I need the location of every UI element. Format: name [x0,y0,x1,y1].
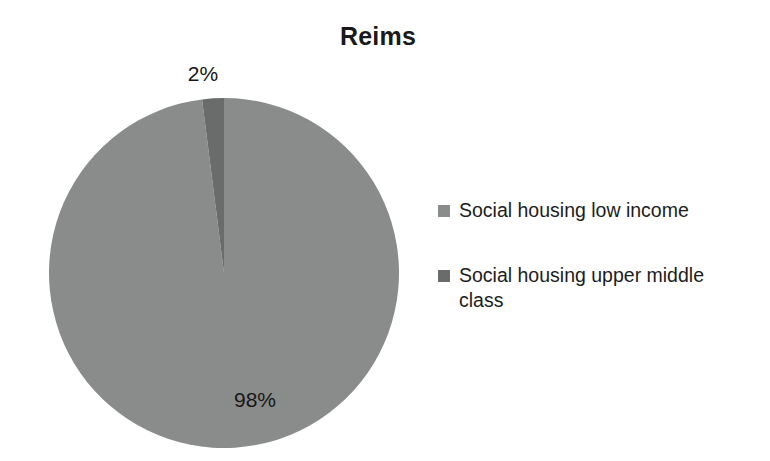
legend-item-label: Social housing upper middle class [459,263,707,313]
chart-legend: Social housing low income Social housing… [438,198,758,353]
legend-item-social-housing-upper-middle-class[interactable]: Social housing upper middle class [438,263,758,313]
data-label-large-slice: 98% [215,388,295,412]
legend-item-label: Social housing low income [459,198,689,223]
legend-swatch-square-icon [438,205,450,217]
chart-title: Reims [268,21,488,51]
legend-swatch-square-icon [438,270,450,282]
legend-item-social-housing-low-income[interactable]: Social housing low income [438,198,758,223]
data-label-small-slice: 2% [163,62,243,86]
pie-chart: Reims 2% 98% Social housing low income S… [0,0,770,461]
